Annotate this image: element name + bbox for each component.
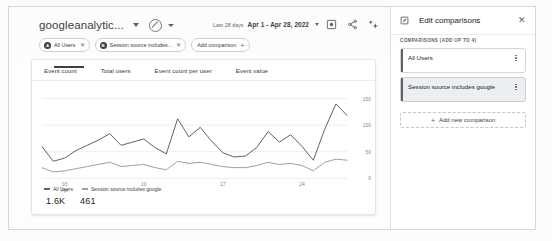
property-title[interactable]: googleanalytic...	[39, 19, 124, 31]
comparison-item-all-users[interactable]: All Users	[400, 48, 526, 73]
date-range-selector[interactable]: Last 28 days Apr 1 - Apr 28, 2022	[213, 21, 319, 28]
chart-series-line-0	[42, 104, 347, 161]
close-icon[interactable]: ✕	[80, 42, 85, 48]
legend-label: Session source includes google	[91, 186, 161, 192]
legend-item-session-source[interactable]: Session source includes google	[82, 186, 161, 192]
y-axis-tick: 150	[363, 96, 371, 102]
no-entry-icon[interactable]	[149, 19, 162, 32]
edit-comparisons-panel: Edit comparisons ✕ COMPARISONS (ADD UP T…	[391, 7, 535, 229]
x-axis-tick: 17	[220, 181, 226, 187]
pencil-square-icon	[400, 16, 409, 25]
date-range-chevron-icon	[315, 23, 319, 26]
comparisons-list: All Users Session source includes google…	[400, 48, 526, 128]
date-range-value: Apr 1 - Apr 28, 2022	[248, 21, 309, 28]
chevron-down-icon[interactable]	[133, 23, 139, 27]
report-pane: googleanalytic... Last 28 days Apr 1 - A…	[9, 7, 391, 229]
metric-tabs: Event count Total users Event count per …	[32, 60, 375, 81]
chart-card: Event count Total users Event count per …	[31, 59, 376, 215]
metric-value-session-source: 461	[80, 196, 114, 206]
tab-active-indicator	[54, 66, 84, 68]
chart-legend: All Users Session source includes google	[44, 186, 161, 192]
close-icon[interactable]: ✕	[176, 42, 181, 48]
tab-label: Event count per user	[155, 67, 212, 74]
date-range-label: Last 28 days	[213, 22, 244, 28]
legend-swatch	[44, 188, 50, 189]
line-chart: 050100150 03Apr101724 All Users Session …	[32, 80, 375, 214]
chip-label: Session source includes...	[110, 42, 173, 48]
panel-header: Edit comparisons ✕	[391, 7, 535, 35]
metric-value-all-users: 1.6K	[46, 196, 80, 206]
comparison-item-session-source[interactable]: Session source includes google	[400, 77, 526, 102]
tab-event-value[interactable]: Event value	[236, 67, 280, 74]
report-header: googleanalytic... Last 28 days Apr 1 - A…	[9, 7, 390, 57]
chevron-down-icon-secondary[interactable]	[168, 24, 174, 27]
more-options-icon[interactable]	[512, 83, 520, 90]
tab-event-count-per-user[interactable]: Event count per user	[155, 67, 224, 74]
plus-icon: +	[240, 42, 244, 49]
header-actions: Last 28 days Apr 1 - Apr 28, 2022	[213, 16, 382, 33]
tab-event-count[interactable]: Event count	[44, 67, 89, 74]
tab-label: Event count	[44, 67, 77, 74]
chip-badge: A	[44, 42, 51, 49]
legend-metric-values: 1.6K 461	[46, 196, 114, 206]
y-axis-tick: 100	[363, 122, 371, 128]
y-axis-tick: 0	[368, 175, 371, 181]
share-icon[interactable]	[344, 16, 361, 33]
chart-svg	[32, 80, 375, 214]
legend-swatch	[82, 188, 88, 189]
more-options-icon[interactable]	[512, 54, 520, 61]
chip-label: All Users	[54, 42, 76, 48]
tab-label: Total users	[101, 67, 131, 74]
save-icon[interactable]	[323, 16, 340, 33]
chip-badge: B	[100, 42, 107, 49]
add-comparison-button[interactable]: Add comparison +	[191, 38, 250, 52]
x-axis-tick: 24	[299, 181, 305, 187]
close-icon[interactable]: ✕	[518, 16, 526, 25]
add-comparison-label: Add comparison	[197, 42, 236, 48]
legend-item-all-users[interactable]: All Users	[44, 186, 73, 192]
comparisons-section-label: COMPARISONS (ADD UP TO 4)	[400, 38, 476, 43]
insights-icon[interactable]	[365, 16, 382, 33]
y-axis-tick: 50	[365, 149, 371, 155]
add-new-comparison-button[interactable]: + Add new comparison	[400, 112, 526, 128]
tab-label: Event value	[236, 67, 268, 74]
comparison-chips: A All Users ✕ B Session source includes.…	[39, 38, 250, 52]
add-new-comparison-label: Add new comparison	[439, 117, 495, 123]
tab-total-users[interactable]: Total users	[101, 67, 143, 74]
comparison-label: All Users	[408, 54, 512, 62]
plus-icon: +	[431, 117, 435, 124]
chip-session-source[interactable]: B Session source includes... ✕	[95, 38, 187, 52]
panel-title: Edit comparisons	[419, 16, 518, 25]
chart-series-line-1	[42, 159, 347, 172]
legend-label: All Users	[53, 186, 73, 192]
comparison-label: Session source includes google	[408, 83, 512, 91]
app-window: googleanalytic... Last 28 days Apr 1 - A…	[8, 6, 536, 230]
chip-all-users[interactable]: A All Users ✕	[39, 38, 90, 52]
comparison-color-bar	[401, 78, 403, 101]
comparison-color-bar	[401, 49, 403, 72]
